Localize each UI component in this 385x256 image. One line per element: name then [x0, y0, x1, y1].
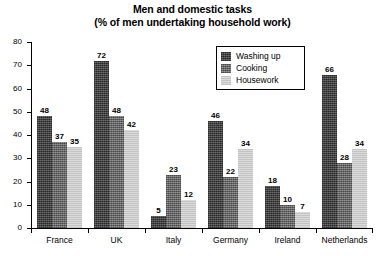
bar-value-uk-washing-up: 72: [97, 51, 106, 60]
bar-value-germany-washing-up: 46: [211, 111, 220, 120]
bar-value-ireland-washing-up: 18: [268, 176, 277, 185]
y-tick-label-0: 0: [18, 223, 22, 232]
x-tick-5: [316, 228, 317, 233]
bar-ireland-cooking: 10: [280, 205, 295, 228]
y-tick-60: 60: [27, 89, 32, 90]
bar-germany-washing-up: 46: [208, 121, 223, 228]
bar-value-france-housework: 35: [70, 137, 79, 146]
y-tick-40: 40: [27, 135, 32, 136]
x-tick-2: [145, 228, 146, 233]
bar-germany-cooking: 22: [223, 177, 238, 228]
y-tick-50: 50: [27, 112, 32, 113]
legend-item-washing-up: Washing up: [221, 50, 300, 62]
chart-title-line1: Men and domestic tasks: [133, 3, 252, 15]
y-tick-label-30: 30: [13, 153, 22, 162]
x-label-germany: Germany: [202, 235, 259, 245]
legend-item-cooking: Cooking: [221, 62, 300, 74]
bar-netherlands-cooking: 28: [337, 163, 352, 228]
x-tick-0: [31, 228, 32, 233]
y-tick-label-10: 10: [13, 200, 22, 209]
bar-germany-housework: 34: [238, 149, 253, 228]
bar-ireland-housework: 7: [295, 212, 310, 228]
x-tick-1: [88, 228, 89, 233]
bar-value-italy-washing-up: 5: [156, 206, 160, 215]
x-label-france: France: [31, 235, 88, 245]
bar-value-uk-cooking: 48: [112, 106, 121, 115]
chart-title: Men and domestic tasks (% of men underta…: [0, 3, 385, 29]
legend-label-cooking: Cooking: [236, 63, 267, 73]
bar-value-france-washing-up: 48: [40, 106, 49, 115]
bar-value-france-cooking: 37: [55, 132, 64, 141]
bar-uk-housework: 42: [124, 130, 139, 228]
y-tick-label-20: 20: [13, 177, 22, 186]
bar-value-netherlands-housework: 34: [355, 139, 364, 148]
bar-italy-washing-up: 5: [151, 216, 166, 228]
chart-title-line2: (% of men undertaking household work): [0, 16, 385, 29]
bar-value-uk-housework: 42: [127, 120, 136, 129]
bar-netherlands-housework: 34: [352, 149, 367, 228]
bar-france-housework: 35: [67, 147, 82, 228]
plot-area: 80 70 60 50 40 30 20 10 0 48 37 35 72 48: [31, 42, 373, 228]
legend-swatch-housework: [221, 76, 231, 85]
bar-value-italy-housework: 12: [184, 190, 193, 199]
bar-france-washing-up: 48: [37, 116, 52, 228]
legend-label-washing-up: Washing up: [236, 51, 281, 61]
y-tick-30: 30: [27, 158, 32, 159]
bar-value-ireland-housework: 7: [300, 202, 304, 211]
y-tick-label-80: 80: [13, 37, 22, 46]
bar-value-germany-housework: 34: [241, 139, 250, 148]
y-tick-label-50: 50: [13, 107, 22, 116]
bar-value-ireland-cooking: 10: [283, 195, 292, 204]
bar-ireland-washing-up: 18: [265, 186, 280, 228]
y-tick-70: 70: [27, 65, 32, 66]
legend-swatch-cooking: [221, 64, 231, 73]
bar-italy-cooking: 23: [166, 175, 181, 229]
bar-netherlands-washing-up: 66: [322, 75, 337, 228]
y-tick-label-60: 60: [13, 84, 22, 93]
y-tick-10: 10: [27, 205, 32, 206]
legend-label-housework: Housework: [236, 75, 279, 85]
x-label-italy: Italy: [145, 235, 202, 245]
x-tick-6: [372, 228, 373, 233]
x-label-ireland: Ireland: [259, 235, 316, 245]
bar-uk-cooking: 48: [109, 116, 124, 228]
chart-legend: Washing up Cooking Housework: [216, 46, 305, 90]
x-label-netherlands: Netherlands: [316, 235, 373, 245]
bar-chart: Men and domestic tasks (% of men underta…: [0, 0, 385, 256]
bar-value-netherlands-washing-up: 66: [325, 65, 334, 74]
y-tick-label-70: 70: [13, 60, 22, 69]
bar-uk-washing-up: 72: [94, 61, 109, 228]
x-tick-4: [259, 228, 260, 233]
y-tick-80: 80: [27, 42, 32, 43]
legend-swatch-washing-up: [221, 52, 231, 61]
bar-italy-housework: 12: [181, 200, 196, 228]
bar-value-germany-cooking: 22: [226, 167, 235, 176]
y-tick-label-40: 40: [13, 130, 22, 139]
x-label-uk: UK: [88, 235, 145, 245]
y-tick-20: 20: [27, 182, 32, 183]
bar-value-italy-cooking: 23: [169, 165, 178, 174]
legend-item-housework: Housework: [221, 74, 300, 86]
bar-france-cooking: 37: [52, 142, 67, 228]
bar-value-netherlands-cooking: 28: [340, 153, 349, 162]
x-tick-3: [202, 228, 203, 233]
